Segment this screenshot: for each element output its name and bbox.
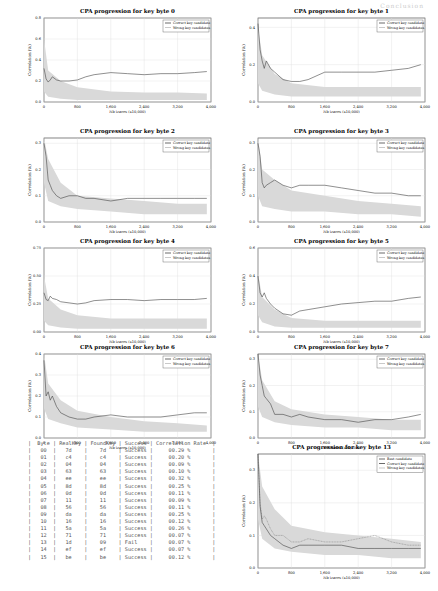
svg-text:Nb traces (x10,000): Nb traces (x10,000) (323, 576, 360, 580)
svg-text:Correct key candidate: Correct key candidate (173, 251, 210, 255)
svg-text:0.2: 0.2 (249, 384, 255, 388)
svg-text:1,600: 1,600 (320, 571, 331, 575)
svg-text:CPA progression for key byte 6: CPA progression for key byte 6 (80, 344, 175, 351)
svg-text:0.2: 0.2 (35, 79, 41, 83)
cpa-chart-3: CPA progression for key byte 308001,6002… (228, 124, 433, 242)
svg-text:3,200: 3,200 (172, 225, 183, 229)
svg-text:Wrong key candidates: Wrong key candidates (387, 362, 424, 366)
svg-text:800: 800 (74, 225, 82, 229)
svg-text:Correlation (%): Correlation (%) (241, 380, 246, 412)
svg-text:Nb traces (x10,000): Nb traces (x10,000) (109, 110, 146, 114)
svg-text:Wrong key candidates: Wrong key candidates (387, 146, 424, 150)
svg-text:800: 800 (288, 105, 296, 109)
svg-text:Correlation (%): Correlation (%) (241, 44, 246, 76)
svg-text:2,400: 2,400 (139, 105, 150, 109)
svg-text:Nb traces (x10,000): Nb traces (x10,000) (323, 110, 360, 114)
svg-text:Wrong key candidates: Wrong key candidates (387, 26, 424, 30)
cpa-chart-5: CPA progression for key byte 508001,6002… (228, 234, 433, 352)
svg-text:1,600: 1,600 (320, 225, 331, 229)
svg-text:2,400: 2,400 (353, 105, 364, 109)
svg-text:3,200: 3,200 (172, 105, 183, 109)
svg-text:800: 800 (288, 225, 296, 229)
svg-text:Correlation (%): Correlation (%) (241, 495, 246, 527)
svg-text:Wrong key candidates: Wrong key candidates (387, 466, 424, 470)
svg-text:1,600: 1,600 (320, 105, 331, 109)
svg-text:Best candidate: Best candidate (387, 457, 412, 461)
svg-text:0.2: 0.2 (249, 168, 255, 172)
svg-text:2,400: 2,400 (139, 225, 150, 229)
svg-text:Wrong key candidates: Wrong key candidates (173, 146, 210, 150)
svg-text:Wrong key candidates: Wrong key candidates (173, 256, 210, 260)
svg-text:0.4: 0.4 (35, 352, 41, 356)
results-table: | Byte | RealKey | FoundKey | Success | … (28, 440, 215, 561)
svg-text:800: 800 (74, 105, 82, 109)
svg-text:3,200: 3,200 (386, 335, 397, 339)
svg-text:0.1: 0.1 (249, 194, 255, 198)
svg-text:0.0: 0.0 (35, 100, 41, 104)
svg-text:2,400: 2,400 (139, 335, 150, 339)
svg-text:Correct key candidate: Correct key candidate (387, 357, 424, 361)
svg-text:4,000: 4,000 (420, 571, 431, 575)
svg-text:0.0: 0.0 (249, 566, 255, 570)
svg-text:CPA progression for key byte 4: CPA progression for key byte 4 (80, 238, 175, 245)
svg-text:0.0: 0.0 (35, 220, 41, 224)
svg-text:4,000: 4,000 (206, 225, 217, 229)
svg-text:0.8: 0.8 (35, 16, 41, 20)
svg-text:0.4: 0.4 (249, 26, 255, 30)
svg-text:0.75: 0.75 (33, 246, 42, 250)
svg-text:0: 0 (257, 335, 260, 339)
svg-text:0.1: 0.1 (35, 415, 41, 419)
svg-text:Correct key candidate: Correct key candidate (387, 251, 424, 255)
svg-text:Wrong key candidates: Wrong key candidates (387, 256, 424, 260)
svg-text:Correct key candidate: Correct key candidate (173, 141, 210, 145)
svg-text:0.2: 0.2 (249, 63, 255, 67)
svg-text:2,400: 2,400 (353, 225, 364, 229)
svg-text:0: 0 (257, 225, 260, 229)
svg-text:0.3: 0.3 (35, 373, 41, 377)
svg-text:CPA progression for key byte 1: CPA progression for key byte 1 (294, 8, 389, 15)
svg-text:4,000: 4,000 (420, 225, 431, 229)
svg-text:4,000: 4,000 (206, 105, 217, 109)
svg-text:0.4: 0.4 (249, 274, 255, 278)
svg-text:0.25: 0.25 (33, 302, 42, 306)
svg-text:3,200: 3,200 (386, 225, 397, 229)
svg-text:0.4: 0.4 (35, 58, 41, 62)
svg-text:1,600: 1,600 (106, 335, 117, 339)
svg-text:4,000: 4,000 (420, 105, 431, 109)
svg-text:0.2: 0.2 (249, 302, 255, 306)
svg-text:0.1: 0.1 (35, 194, 41, 198)
svg-text:1,600: 1,600 (106, 225, 117, 229)
svg-text:2,400: 2,400 (353, 335, 364, 339)
svg-text:CPA progression for key byte 2: CPA progression for key byte 2 (80, 128, 175, 135)
svg-text:0.2: 0.2 (249, 501, 255, 505)
svg-text:0.3: 0.3 (249, 468, 255, 472)
svg-text:0.0: 0.0 (249, 100, 255, 104)
svg-text:4,000: 4,000 (206, 335, 217, 339)
svg-text:CPA progression for key byte 7: CPA progression for key byte 7 (294, 344, 389, 351)
svg-text:0.3: 0.3 (249, 141, 255, 145)
svg-text:3,200: 3,200 (386, 105, 397, 109)
svg-text:Correlation (%): Correlation (%) (27, 164, 32, 196)
svg-text:Correct key candidate: Correct key candidate (173, 357, 210, 361)
svg-text:0.6: 0.6 (249, 246, 255, 250)
svg-text:0.3: 0.3 (249, 357, 255, 361)
svg-text:CPA progression for key byte 3: CPA progression for key byte 3 (294, 128, 389, 135)
svg-text:0.3: 0.3 (35, 141, 41, 145)
svg-text:800: 800 (288, 335, 296, 339)
svg-text:Correlation (%): Correlation (%) (241, 164, 246, 196)
svg-text:0: 0 (257, 105, 260, 109)
svg-text:Correct key candidate: Correct key candidate (173, 21, 210, 25)
svg-text:0.0: 0.0 (249, 330, 255, 334)
svg-text:0.50: 0.50 (33, 274, 42, 278)
svg-text:0: 0 (43, 105, 46, 109)
svg-text:0: 0 (43, 335, 46, 339)
svg-text:Correlation (%): Correlation (%) (27, 274, 32, 306)
svg-text:0.2: 0.2 (35, 168, 41, 172)
svg-text:0.00: 0.00 (33, 330, 42, 334)
svg-text:800: 800 (74, 335, 82, 339)
svg-text:Correct key candidate: Correct key candidate (387, 462, 424, 466)
svg-text:CPA progression for key byte 0: CPA progression for key byte 0 (80, 8, 175, 15)
cpa-chart-4: CPA progression for key byte 408001,6002… (14, 234, 219, 352)
svg-text:800: 800 (288, 571, 296, 575)
cpa-chart-0: CPA progression for key byte 008001,6002… (14, 4, 219, 122)
